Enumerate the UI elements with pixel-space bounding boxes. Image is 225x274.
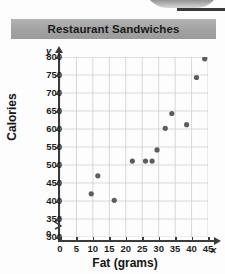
data-point [184,122,189,127]
scatter-plot: y x 0 300350400450500550600650700750800 … [0,44,225,274]
data-point [169,111,174,116]
x-tick-15: 15 [100,244,118,254]
data-point [163,126,168,131]
y-tick-mark [55,237,59,239]
y-axis-title: Calories [5,81,19,153]
x-tick-mark [192,237,194,241]
x-tick-mark [159,237,161,241]
data-point [89,191,94,196]
chart-title-banner: Restaurant Sandwiches [11,19,216,39]
data-point [154,147,159,152]
x-tick-45: 45 [199,244,217,254]
y-tick-mark [55,129,59,131]
data-point [194,75,199,80]
data-points-layer [60,57,208,237]
y-tick-mark [55,183,59,185]
x-axis-title: Fat (grams) [40,256,210,270]
y-tick-mark [55,165,59,167]
data-point [202,57,207,61]
x-tick-mark [126,237,128,241]
y-tick-mark [55,219,59,221]
x-tick-10: 10 [84,244,102,254]
data-point [95,173,100,178]
x-tick-35: 35 [166,244,184,254]
x-tick-25: 25 [133,244,151,254]
x-tick-mark [208,237,210,241]
page-title: Restaurant Sandwiches [48,23,180,35]
data-point [130,158,135,163]
data-point [143,158,148,163]
data-point [149,158,154,163]
x-tick-mark [76,237,78,241]
y-tick-mark [55,75,59,77]
x-tick-mark [60,237,62,241]
x-tick-mark [142,237,144,241]
plot-grid [60,57,208,237]
x-tick-mark [109,237,111,241]
x-tick-20: 20 [117,244,135,254]
y-tick-mark [55,93,59,95]
y-tick-mark [55,201,59,203]
decorative-tab [145,0,219,8]
y-tick-mark [55,111,59,113]
x-tick-30: 30 [150,244,168,254]
x-tick-5: 5 [67,244,85,254]
y-tick-mark [55,147,59,149]
x-tick-mark [93,237,95,241]
decorative-rule [177,8,225,11]
x-tick-mark [175,237,177,241]
x-tick-0: 0 [51,244,69,254]
y-tick-mark [55,57,59,59]
x-tick-40: 40 [183,244,201,254]
data-point [112,198,117,203]
